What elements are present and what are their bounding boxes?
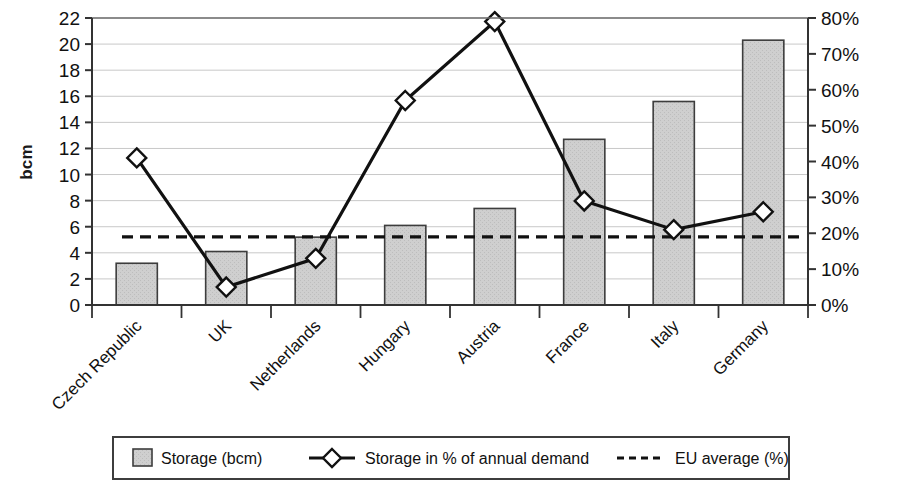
y-axis-tick-label: 0 bbox=[69, 295, 80, 316]
y2-axis-tick-label: 80% bbox=[821, 8, 859, 29]
y2-axis-tick-label: 60% bbox=[821, 80, 859, 101]
y-axis-tick-label: 12 bbox=[59, 138, 80, 159]
storage-chart: 02468101214161820220%10%20%30%40%50%60%7… bbox=[0, 0, 902, 494]
y-axis-tick-label: 8 bbox=[69, 191, 80, 212]
bar bbox=[116, 263, 157, 305]
y2-axis-tick-label: 30% bbox=[821, 187, 859, 208]
y-axis-tick-label: 2 bbox=[69, 269, 80, 290]
y2-axis-tick-label: 20% bbox=[821, 223, 859, 244]
x-axis-category-label: France bbox=[542, 316, 593, 367]
gridlines bbox=[92, 18, 808, 279]
legend-label-storage-percent: Storage in % of annual demand bbox=[365, 450, 589, 467]
y-axis-ticks: 0246810121416182022 bbox=[59, 8, 92, 316]
bar bbox=[474, 208, 515, 305]
y-axis-tick-label: 20 bbox=[59, 34, 80, 55]
percent-data-point-marker bbox=[127, 148, 146, 167]
y-axis-tick-label: 16 bbox=[59, 86, 80, 107]
x-axis-ticks bbox=[92, 305, 808, 318]
x-axis-labels: Czech RepublicUKNetherlandsHungaryAustri… bbox=[48, 316, 772, 414]
bar bbox=[653, 101, 694, 305]
bar bbox=[564, 139, 605, 305]
y-axis-tick-label: 18 bbox=[59, 60, 80, 81]
bar bbox=[743, 40, 784, 305]
y2-axis-tick-label: 10% bbox=[821, 259, 859, 280]
x-axis-category-label: UK bbox=[205, 316, 236, 347]
x-axis-category-label: Germany bbox=[709, 316, 772, 379]
y-axis-title: bcm bbox=[17, 135, 37, 189]
y2-axis-tick-label: 50% bbox=[821, 116, 859, 137]
gray-square-swatch-icon bbox=[133, 449, 152, 466]
y-axis-tick-label: 14 bbox=[59, 112, 81, 133]
x-axis-category-label: Czech Republic bbox=[48, 316, 146, 414]
y-axis-tick-label: 6 bbox=[69, 217, 80, 238]
chart-container: bcm 02468101214161820220%10%20%30%40%50%… bbox=[0, 0, 902, 494]
x-axis-category-label: Netherlands bbox=[246, 316, 324, 394]
y2-axis-ticks: 0%10%20%30%40%50%60%70%80% bbox=[808, 8, 859, 316]
bars bbox=[116, 40, 784, 305]
y2-axis-tick-label: 40% bbox=[821, 152, 859, 173]
y-axis-tick-label: 10 bbox=[59, 165, 80, 186]
y-axis-tick-label: 4 bbox=[69, 243, 80, 264]
legend-label-storage-bcm: Storage (bcm) bbox=[161, 450, 262, 467]
y2-axis-tick-label: 0% bbox=[821, 295, 849, 316]
legend-item-storage-bcm: Storage (bcm) bbox=[133, 449, 262, 467]
y-axis-tick-label: 22 bbox=[59, 8, 80, 29]
x-axis-category-label: Austria bbox=[453, 316, 504, 367]
legend-label-eu-average: EU average (%) bbox=[675, 450, 789, 467]
y2-axis-tick-label: 70% bbox=[821, 44, 859, 65]
x-axis-category-label: Hungary bbox=[355, 316, 414, 375]
x-axis-category-label: Italy bbox=[647, 316, 683, 352]
